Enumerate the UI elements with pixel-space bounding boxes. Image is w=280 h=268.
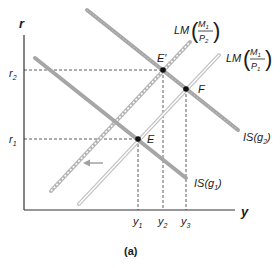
tick-y2: y2	[157, 215, 168, 229]
y-axis-label: r	[19, 16, 25, 31]
tick-r1: r1	[9, 133, 17, 147]
label-lm-p2: LM ( M1 P2 )	[174, 18, 220, 44]
label-is-g1: IS(g1)	[194, 177, 222, 191]
label-is-g2: IS(g2)	[243, 131, 271, 145]
lm-curve-p2	[51, 42, 190, 191]
figure-caption: (a)	[124, 245, 138, 257]
svg-text:): )	[265, 46, 272, 71]
x-axis-label: y	[240, 204, 249, 219]
tick-y3: y3	[180, 215, 191, 229]
svg-text:P2: P2	[199, 33, 209, 44]
label-E: E	[147, 133, 155, 145]
equilibrium-points	[135, 67, 189, 142]
tick-y1: y1	[132, 215, 143, 229]
point-F	[183, 86, 189, 92]
label-E-prime: E′	[157, 52, 167, 64]
shift-arrow-icon	[83, 160, 103, 167]
label-lm-p1: LM ( M1 P1 )	[226, 46, 272, 72]
is-lm-diagram: r y E E′ F r2 r1 y1	[0, 0, 280, 268]
svg-text:M1: M1	[198, 19, 209, 30]
point-E-prime	[160, 67, 166, 73]
point-E	[135, 136, 141, 142]
label-F: F	[198, 83, 206, 95]
svg-text:P1: P1	[251, 61, 260, 72]
svg-text:): )	[213, 18, 220, 43]
tick-r2: r2	[9, 67, 17, 81]
guide-lines	[24, 70, 186, 210]
svg-text:M1: M1	[250, 47, 261, 58]
svg-text:LM: LM	[226, 52, 242, 64]
svg-text:LM: LM	[174, 24, 190, 36]
